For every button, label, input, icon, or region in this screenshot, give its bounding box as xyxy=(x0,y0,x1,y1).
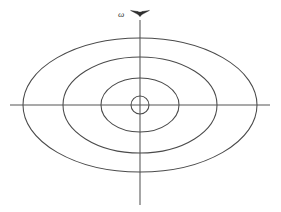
contour-plot xyxy=(0,0,281,212)
rotation-axis-arrowhead xyxy=(131,10,150,16)
axes-group xyxy=(10,20,270,205)
figure-canvas: ω xyxy=(0,0,281,212)
angular-velocity-symbol: ω xyxy=(118,10,124,19)
